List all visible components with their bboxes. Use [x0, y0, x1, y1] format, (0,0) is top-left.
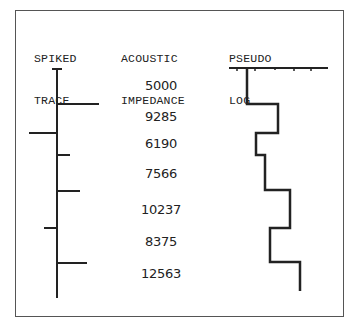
pseudo-log-curve: [247, 68, 300, 291]
trace-drawing: [0, 0, 356, 330]
pseudo-log: [229, 68, 328, 291]
spiked-trace: [29, 69, 99, 298]
spikes: [29, 104, 99, 263]
